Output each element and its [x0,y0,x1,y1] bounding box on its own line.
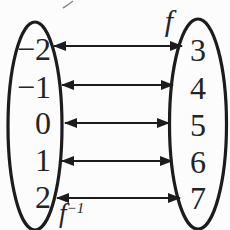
right-element-4: 4 [190,70,206,106]
right-element-5: 5 [190,107,206,143]
scan-artifact-mark [63,1,73,8]
right-set-elements: 3 4 5 6 7 [190,32,206,216]
mapping-arrows [54,46,182,198]
left-element-0: 0 [35,105,51,141]
left-element-neg1: −1 [17,69,51,105]
right-element-3: 3 [190,32,206,68]
function-label: f [165,4,177,37]
right-element-6: 6 [190,144,206,180]
left-element-neg2: −2 [17,31,51,67]
left-element-1: 1 [35,142,51,178]
left-set-elements: −2 −1 0 1 2 [17,31,51,215]
function-mapping-diagram: −2 −1 0 1 2 3 4 5 6 7 f f−1 [0,0,230,230]
diagram-canvas: −2 −1 0 1 2 3 4 5 6 7 f f−1 [0,0,230,230]
inverse-function-exponent: −1 [67,200,85,216]
right-element-7: 7 [190,180,206,216]
inverse-function-label: f−1 [59,198,84,228]
left-element-2: 2 [35,179,51,215]
